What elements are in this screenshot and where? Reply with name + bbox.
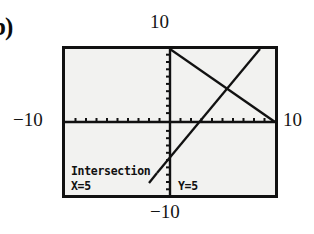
ascending-line — [157, 49, 260, 173]
intersection-readout-x: X=5 — [71, 181, 91, 193]
descending-line — [170, 49, 275, 122]
graphing-calculator-screen: Intersection X=5 Y=5 — [62, 46, 278, 198]
figure-part-label: b) — [0, 14, 12, 39]
intersection-readout-title: Intersection — [71, 166, 150, 178]
axis-label-top: 10 — [150, 12, 169, 31]
axis-label-bottom: −10 — [150, 202, 180, 221]
intersection-readout-y: Y=5 — [178, 181, 198, 193]
axis-label-left: −10 — [13, 110, 43, 129]
axis-label-right: 10 — [283, 110, 302, 129]
